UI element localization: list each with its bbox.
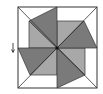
center-dot bbox=[55, 46, 58, 49]
down-arrow-icon bbox=[12, 43, 15, 53]
pinwheel-diagram bbox=[0, 0, 103, 94]
